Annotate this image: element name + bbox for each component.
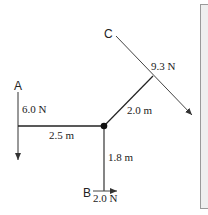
point-c-label: C bbox=[104, 28, 113, 40]
side-panel bbox=[200, 4, 208, 209]
arm-vertical-label: 1.8 m bbox=[108, 152, 133, 163]
force-b-label: 2.0 N bbox=[93, 193, 117, 204]
arm-horizontal-label: 2.5 m bbox=[49, 130, 74, 141]
point-b-label: B bbox=[83, 187, 91, 199]
force-c-label: 9.3 N bbox=[151, 61, 175, 72]
pivot-point bbox=[101, 123, 108, 130]
arm-diagonal-label: 2.0 m bbox=[127, 105, 152, 116]
arm-diagonal bbox=[104, 76, 153, 126]
force-a-label: 6.0 N bbox=[22, 104, 46, 115]
point-a-label: A bbox=[14, 80, 22, 92]
